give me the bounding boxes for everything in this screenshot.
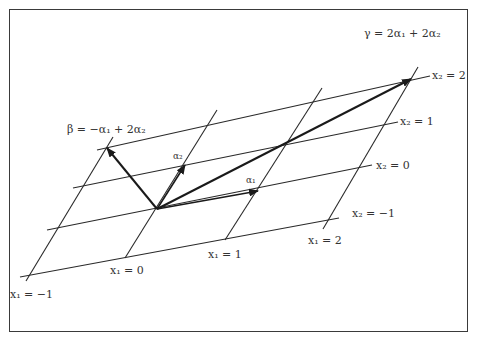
x2-eq-2-label: x₂ = 2 [432,70,466,81]
x2-eq-0-label: x₂ = 0 [376,160,410,171]
coordinate-grid-diagram [0,0,477,344]
line-x1-neg1 [26,137,113,281]
line-x1-2 [323,67,418,229]
vector-beta [107,148,157,209]
x2-eq-neg1-label: x₂ = −1 [352,208,395,219]
gamma-label: γ = 2α₁ + 2α₂ [364,28,441,39]
x1-eq-1-label: x₁ = 1 [208,249,242,260]
x1-eq-0-label: x₁ = 0 [110,265,144,276]
line-x2-2 [97,76,430,150]
vector-alpha1 [157,191,258,209]
beta-label: β = −α₁ + 2α₂ [67,124,146,135]
line-x2-neg1 [20,218,339,277]
alpha1-label: α₁ [246,176,256,185]
alpha2-label: α₂ [173,152,183,161]
x1-eq-2-label: x₁ = 2 [308,235,342,246]
x2-eq-1-label: x₂ = 1 [400,116,434,127]
x1-eq-neg1-label: x₁ = −1 [10,289,53,300]
line-x2-0 [47,165,372,230]
